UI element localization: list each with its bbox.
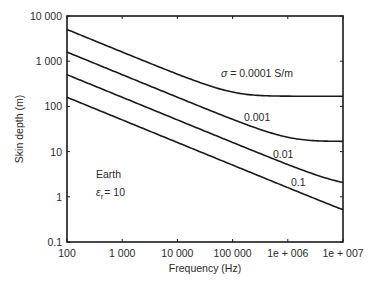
epsilon-subscript: r xyxy=(101,192,104,201)
x-tick-label: 100 xyxy=(58,247,76,259)
curve-sigma-0.01 xyxy=(67,75,343,183)
annotation-earth: Earth xyxy=(96,168,121,180)
y-tick-label: 100 xyxy=(44,100,62,112)
x-tick-label: 10 000 xyxy=(161,247,193,259)
series-label-1: 0.001 xyxy=(244,111,270,123)
plot-frame xyxy=(67,16,343,242)
y-axis-ticks: 0.11101001 00010 000 xyxy=(30,10,343,248)
y-tick-label: 1 xyxy=(56,191,62,203)
y-tick-label: 10 000 xyxy=(30,10,62,22)
series-label-2: 0.01 xyxy=(273,148,294,160)
x-axis-ticks: 1001 00010 000100 0001e + 0061e + 007 xyxy=(58,16,364,259)
skin-depth-chart: 1001 00010 000100 0001e + 0061e + 007 0.… xyxy=(0,0,380,285)
y-tick-label: 1 000 xyxy=(36,55,62,67)
x-tick-label: 1e + 006 xyxy=(267,247,308,259)
annotation-permittivity: εr= 10 xyxy=(96,186,125,201)
curve-sigma-0.0001 xyxy=(67,29,343,96)
x-axis-title: Frequency (Hz) xyxy=(169,262,241,274)
series-label-0-text: = 0.0001 S/m xyxy=(227,67,293,79)
y-axis-title: Skin depth (m) xyxy=(13,95,25,163)
series-label-0: σ = 0.0001 S/m xyxy=(221,67,293,79)
y-tick-label: 10 xyxy=(50,146,62,158)
x-tick-label: 1e + 007 xyxy=(322,247,363,259)
epsilon-value: = 10 xyxy=(104,186,125,198)
x-tick-label: 100 000 xyxy=(214,247,252,259)
y-tick-label: 0.1 xyxy=(47,236,62,248)
series-label-3: 0.1 xyxy=(291,176,306,188)
x-tick-label: 1 000 xyxy=(109,247,135,259)
